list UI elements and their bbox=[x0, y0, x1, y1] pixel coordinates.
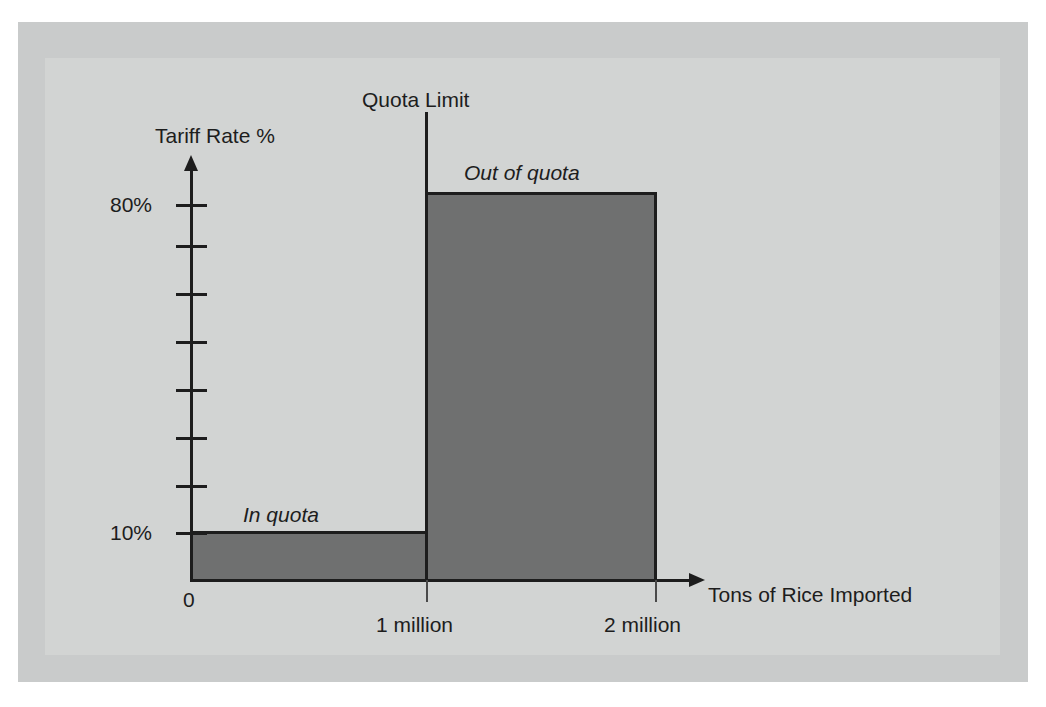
y-axis-arrow-icon bbox=[184, 155, 198, 171]
series-label-out-of-quota: Out of quota bbox=[464, 161, 580, 185]
bar-in-quota bbox=[190, 531, 428, 582]
y-tick-label-10: 10% bbox=[110, 521, 152, 545]
y-tick-label-80: 80% bbox=[110, 193, 152, 217]
y-tick-minor-3 bbox=[176, 437, 207, 440]
y-tick-minor-4 bbox=[176, 389, 207, 392]
y-axis-title: Tariff Rate % bbox=[155, 124, 275, 148]
y-tick-minor-2 bbox=[176, 485, 207, 488]
y-tick-80 bbox=[176, 204, 207, 207]
x-axis-line bbox=[190, 579, 691, 582]
x-tick-2-million bbox=[655, 580, 657, 602]
x-tick-label-origin: 0 bbox=[183, 588, 195, 612]
chart-figure: Tariff Rate % Tons of Rice Imported Quot… bbox=[0, 0, 1046, 707]
x-tick-label-1-million: 1 million bbox=[376, 613, 453, 637]
y-axis-line bbox=[190, 168, 193, 582]
y-tick-minor-5 bbox=[176, 341, 207, 344]
y-tick-minor-7 bbox=[176, 245, 207, 248]
y-tick-minor-6 bbox=[176, 293, 207, 296]
x-axis-arrow-icon bbox=[689, 573, 705, 587]
quota-limit-label: Quota Limit bbox=[362, 88, 469, 112]
x-axis-title: Tons of Rice Imported bbox=[708, 583, 912, 607]
y-tick-10 bbox=[176, 532, 207, 535]
x-tick-1-million bbox=[426, 580, 428, 602]
bar-out-of-quota bbox=[425, 192, 657, 582]
quota-limit-line bbox=[425, 112, 428, 534]
x-tick-label-2-million: 2 million bbox=[604, 613, 681, 637]
series-label-in-quota: In quota bbox=[243, 503, 319, 527]
